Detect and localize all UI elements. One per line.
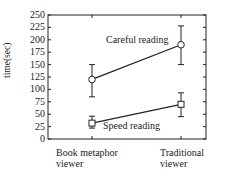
y-tick-label: 100 bbox=[30, 83, 45, 94]
y-tick-label: 25 bbox=[35, 121, 45, 132]
y-tick-label: 250 bbox=[30, 9, 45, 20]
square-marker-icon bbox=[178, 101, 184, 107]
y-tick-label: 150 bbox=[30, 59, 45, 70]
y-tick-label: 125 bbox=[30, 71, 45, 82]
circle-marker-icon bbox=[89, 76, 96, 83]
y-tick-label: 175 bbox=[30, 46, 45, 57]
series-annotation-label: Speed reading bbox=[103, 120, 160, 131]
x-tick-label: Traditionalviewer bbox=[160, 147, 204, 169]
y-tick-label: 225 bbox=[30, 21, 45, 32]
y-tick-label: 200 bbox=[30, 34, 45, 45]
x-tick-label: Book metaphorviewer bbox=[56, 147, 118, 169]
circle-marker-icon bbox=[178, 41, 185, 48]
y-tick-label: 0 bbox=[40, 133, 45, 144]
series-annotation-label: Careful reading bbox=[106, 34, 168, 45]
y-axis-label: time(sec) bbox=[2, 43, 12, 78]
y-tick-label: 75 bbox=[35, 96, 45, 107]
series-line bbox=[92, 45, 181, 80]
y-tick-label: 50 bbox=[35, 108, 45, 119]
square-marker-icon bbox=[89, 120, 95, 126]
